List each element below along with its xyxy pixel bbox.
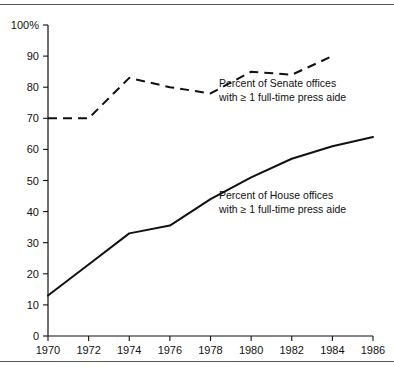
y-tick-label-50: 50 bbox=[27, 175, 39, 187]
x-tick-label-1980: 1980 bbox=[239, 344, 263, 356]
y-tick-label-80: 80 bbox=[27, 81, 39, 93]
house-annotation-line2: with ≥ 1 full-time press aide bbox=[218, 203, 346, 215]
y-tick-label-20: 20 bbox=[27, 268, 39, 280]
x-axis-ticks bbox=[48, 336, 373, 341]
senate-annotation-line2: with ≥ 1 full-time press aide bbox=[218, 91, 346, 103]
y-tick-label-60: 60 bbox=[27, 143, 39, 155]
y-tick-label-90: 90 bbox=[27, 50, 39, 62]
y-tick-label-10: 10 bbox=[27, 299, 39, 311]
y-tick-label-30: 30 bbox=[27, 237, 39, 249]
y-tick-label-0: 0 bbox=[33, 330, 39, 342]
series-line-house bbox=[48, 137, 373, 296]
y-axis-tick-labels: 0102030405060708090100% bbox=[11, 19, 39, 342]
senate-annotation-line1: Percent of Senate offices bbox=[219, 77, 336, 89]
axis-lines bbox=[48, 25, 373, 336]
y-tick-label-40: 40 bbox=[27, 206, 39, 218]
house-annotation: Percent of House offices with ≥ 1 full-t… bbox=[218, 189, 346, 215]
senate-annotation: Percent of Senate offices with ≥ 1 full-… bbox=[218, 77, 346, 103]
chart-figure: 0102030405060708090100% 1970197219741976… bbox=[0, 0, 394, 373]
x-tick-label-1978: 1978 bbox=[198, 344, 222, 356]
x-tick-label-1984: 1984 bbox=[320, 344, 344, 356]
y-tick-label-70: 70 bbox=[27, 112, 39, 124]
y-tick-label-100%: 100% bbox=[11, 19, 39, 31]
x-tick-label-1970: 1970 bbox=[36, 344, 60, 356]
chart-plot-area: 0102030405060708090100% 1970197219741976… bbox=[0, 0, 394, 373]
x-axis-tick-labels: 197019721974197619781980198219841986 bbox=[36, 344, 385, 356]
x-tick-label-1986: 1986 bbox=[361, 344, 385, 356]
x-tick-label-1982: 1982 bbox=[280, 344, 304, 356]
x-tick-label-1972: 1972 bbox=[76, 344, 100, 356]
x-tick-label-1976: 1976 bbox=[158, 344, 182, 356]
x-tick-label-1974: 1974 bbox=[117, 344, 141, 356]
y-axis-ticks bbox=[43, 25, 48, 336]
house-annotation-line1: Percent of House offices bbox=[219, 189, 333, 201]
